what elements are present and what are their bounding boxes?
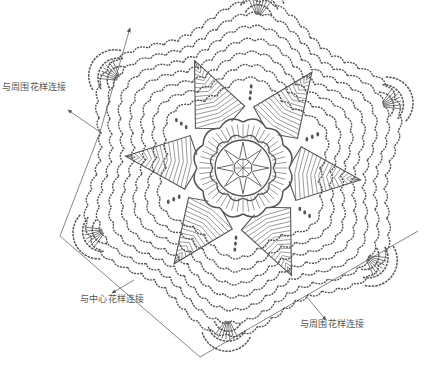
annotation-bottom-left: 与中心花样连接 (80, 292, 144, 305)
annotation-top-left: 与周围花样连接 (2, 80, 66, 93)
annotation-bottom-right: 与周围花样连接 (300, 317, 364, 330)
annotation-arrows (68, 110, 326, 320)
doily-chart-svg (0, 0, 438, 379)
center-flower (194, 119, 292, 217)
crochet-chart: 与周围花样连接 与中心花样连接 与周围花样连接 (0, 0, 438, 379)
